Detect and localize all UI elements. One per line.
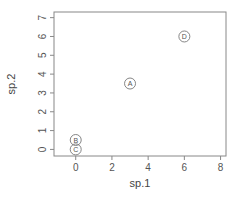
scatter-plot: 02468 01234567 ABCD sp.1 sp.2 [0,0,242,202]
y-tick-label: 2 [37,109,48,115]
x-tick-label: 8 [218,162,224,173]
x-tick-label: 4 [145,162,151,173]
data-point-a: A [125,78,136,89]
y-tick-label: 0 [37,146,48,152]
data-point-d: D [179,31,190,42]
data-points: ABCD [70,31,190,155]
x-axis-label: sp.1 [130,177,151,189]
y-tick-label: 5 [37,52,48,58]
x-tick-label: 6 [182,162,188,173]
x-axis-ticks: 02468 [73,156,224,173]
x-tick-label: 0 [73,162,79,173]
x-tick-label: 2 [109,162,115,173]
y-tick-label: 6 [37,33,48,39]
point-label: A [128,80,133,87]
y-tick-label: 4 [37,71,48,77]
y-axis-ticks: 01234567 [37,14,54,152]
point-label: D [182,33,187,40]
y-tick-label: 1 [37,127,48,133]
y-axis-label: sp.2 [5,74,17,95]
point-label: C [73,146,78,153]
data-point-c: C [70,144,81,155]
plot-frame [54,12,226,156]
point-label: B [73,137,78,144]
y-tick-label: 7 [37,14,48,20]
y-tick-label: 3 [37,90,48,96]
